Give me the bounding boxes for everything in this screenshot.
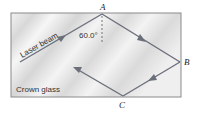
material-label: Crown glass: [16, 85, 60, 94]
glass-block-diagram: Laser beam 60.0° Crown glass A B C: [0, 0, 198, 117]
angle-label: 60.0°: [79, 31, 98, 40]
point-c-label: C: [119, 100, 126, 110]
point-b-label: B: [184, 57, 190, 67]
point-a-label: A: [99, 2, 106, 12]
